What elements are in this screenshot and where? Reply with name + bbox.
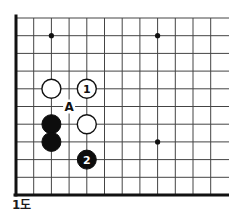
stone-move-number: 1 — [83, 83, 91, 96]
stone-move-number: 2 — [83, 154, 91, 167]
white-stone[interactable] — [77, 115, 96, 134]
marker-label: A — [64, 100, 74, 114]
white-stone[interactable]: 1 — [77, 79, 96, 98]
go-diagram-figure: A 12 1도 — [0, 0, 229, 216]
stone-disc — [42, 132, 61, 151]
stone-disc — [42, 79, 61, 98]
black-stone[interactable] — [42, 132, 61, 151]
stone-disc — [42, 115, 61, 134]
figure-caption: 1도 — [12, 198, 31, 212]
black-stone[interactable] — [42, 115, 61, 134]
go-board[interactable]: A 12 — [0, 0, 229, 216]
board-marker-a: A — [63, 100, 75, 115]
star-point — [155, 33, 160, 38]
white-stone[interactable] — [42, 79, 61, 98]
star-point — [49, 33, 54, 38]
stone-disc — [77, 115, 96, 134]
black-stone[interactable]: 2 — [77, 150, 96, 169]
board-background — [0, 0, 229, 216]
star-point — [155, 139, 160, 144]
board-markers: A — [63, 100, 75, 115]
